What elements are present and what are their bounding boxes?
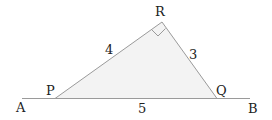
triangle-diagram: R P Q A B 4 3 5 [0,0,272,120]
label-a: A [15,100,26,115]
side-label-pq: 5 [138,101,146,116]
label-r: R [155,4,166,19]
label-p: P [46,83,55,98]
side-label-pr: 4 [105,42,113,57]
label-b: B [248,101,258,116]
side-label-rq: 3 [189,47,197,62]
label-q: Q [216,83,227,98]
